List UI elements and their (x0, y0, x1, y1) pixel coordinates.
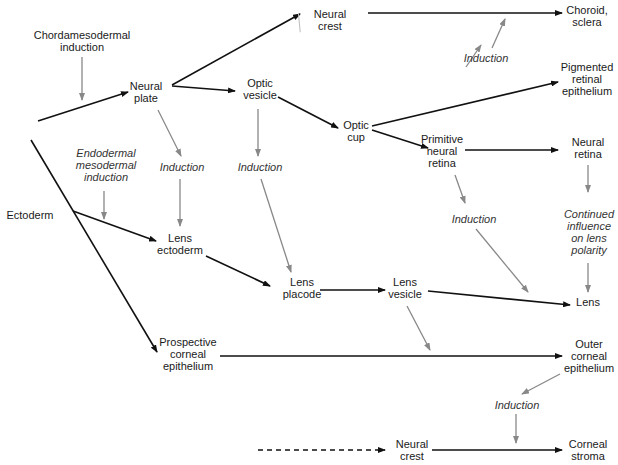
node-prospective-corneal: Prospective corneal epithelium (159, 336, 216, 372)
node-primitive-retina: Primitive neural retina (421, 133, 463, 169)
node-neural-crest-top: Neural crest (314, 8, 346, 32)
node-endo-meso: Endodermal mesodermal induction (76, 147, 137, 183)
node-lens-placode: Lens placode (283, 276, 322, 300)
node-ectoderm: Ectoderm (6, 209, 53, 221)
node-induction-np: Induction (160, 161, 205, 173)
node-lens-vesicle: Lens vesicle (388, 276, 422, 300)
node-optic-cup: Optic cup (343, 119, 369, 143)
node-induction-top: Induction (464, 52, 509, 64)
node-induction-oc: Induction (495, 399, 540, 411)
node-neural-plate: Neural plate (130, 80, 162, 104)
node-optic-vesicle: Optic vesicle (243, 77, 277, 101)
diagram-arrows (0, 0, 618, 465)
node-choroid-sclera: Choroid, sclera (566, 4, 608, 28)
node-induction-pr: Induction (452, 213, 497, 225)
node-corneal-stroma: Corneal stroma (569, 438, 608, 462)
node-pigmented: Pigmented retinal epithelium (561, 61, 614, 97)
node-lens: Lens (576, 296, 600, 308)
node-lens-ectoderm: Lens ectoderm (157, 232, 203, 256)
node-neural-crest-bottom: Neural crest (396, 438, 428, 462)
node-induction-ov: Induction (238, 161, 283, 173)
node-chordamesodermal: Chordamesodermal induction (34, 29, 131, 53)
node-continued: Continued influence on lens polarity (564, 208, 614, 256)
node-outer-corneal: Outer corneal epithelium (564, 338, 614, 374)
node-neural-retina: Neural retina (572, 136, 604, 160)
